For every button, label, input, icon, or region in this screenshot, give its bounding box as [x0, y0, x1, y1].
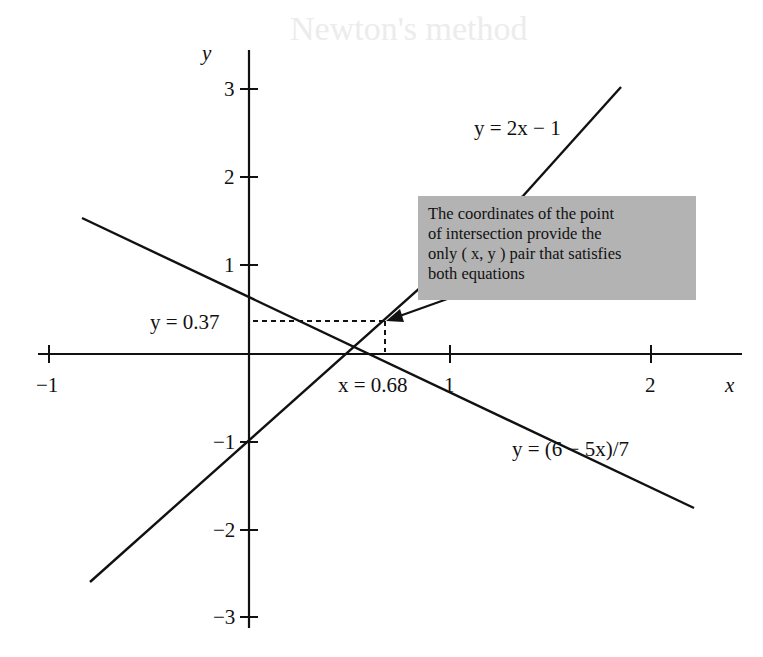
y-tick-label: 3	[224, 77, 235, 101]
line-y-2x-minus-1-upper	[523, 87, 621, 196]
line-chart: −1 1 2 3 2 1 −1 −2 −3 x y y = 0.37 x = 0…	[0, 0, 763, 657]
x-axis-label: x	[724, 373, 735, 397]
line2-label: y = (6 − 5x)/7	[512, 437, 629, 461]
callout-line: only ( x, y ) pair that satisfies	[428, 244, 688, 264]
x-guide-label: x = 0.68	[338, 373, 408, 397]
y-tick-label: 1	[224, 253, 235, 277]
y-tick-label: −1	[213, 430, 235, 454]
line1-label: y = 2x − 1	[474, 116, 561, 140]
y-axis-label: y	[200, 41, 212, 65]
callout-line: The coordinates of the point	[428, 204, 688, 224]
callout-line: of intersection provide the	[428, 224, 688, 244]
x-tick-label: −1	[36, 373, 58, 397]
callout-line: both equations	[428, 264, 688, 284]
intersection-callout: The coordinates of the point of intersec…	[418, 196, 696, 300]
y-guide-label: y = 0.37	[150, 310, 220, 334]
x-tick-label: 2	[645, 373, 656, 397]
y-tick-label: −3	[213, 605, 235, 629]
y-tick-label: −2	[213, 518, 235, 542]
y-tick-label: 2	[224, 165, 235, 189]
